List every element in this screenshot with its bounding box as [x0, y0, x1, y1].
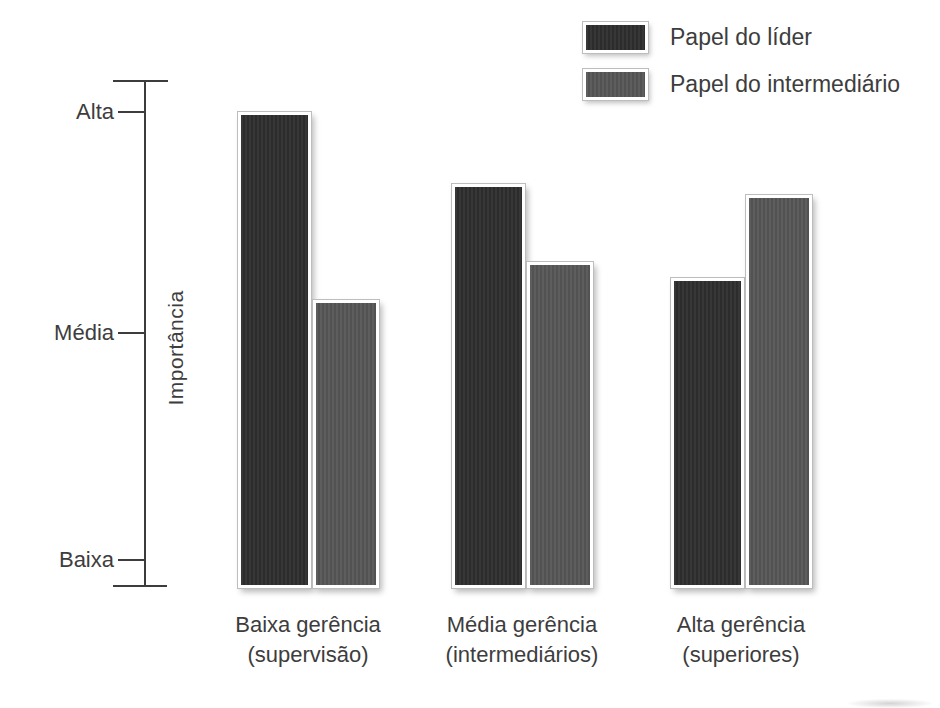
y-tick-label-baixa: Baixa	[14, 546, 114, 574]
scan-artifact	[848, 699, 932, 708]
bar-intermediario-alta-gerencia	[746, 195, 812, 588]
legend: Papel do líder Papel do intermediário	[583, 22, 900, 100]
bar-lider-media-gerencia	[452, 184, 525, 588]
bar-lider-alta-gerencia	[671, 278, 744, 588]
x-label-line2: (superiores)	[621, 640, 861, 670]
y-axis-bottom-cap	[113, 585, 167, 587]
x-label-line1: Baixa gerência	[188, 610, 428, 640]
x-label-baixa-gerencia: Baixa gerência (supervisão)	[188, 610, 428, 670]
bar-group-media-gerencia	[452, 184, 593, 588]
y-axis-line	[144, 81, 146, 587]
y-tick-media	[118, 332, 145, 334]
y-axis-top-cap	[113, 80, 168, 82]
legend-swatch-lider	[583, 22, 648, 53]
bar-intermediario-baixa-gerencia	[313, 300, 379, 588]
legend-swatch-intermediario	[583, 69, 648, 100]
x-label-alta-gerencia: Alta gerência (superiores)	[621, 610, 861, 670]
legend-label-intermediario: Papel do intermediário	[670, 71, 900, 98]
bar-group-alta-gerencia	[671, 195, 812, 588]
bar-intermediario-media-gerencia	[527, 262, 593, 588]
bar-lider-baixa-gerencia	[238, 112, 311, 588]
x-label-line1: Alta gerência	[621, 610, 861, 640]
bar-group-baixa-gerencia	[238, 112, 379, 588]
y-axis-title: Importância	[164, 290, 188, 405]
x-label-media-gerencia: Média gerência (intermediários)	[402, 610, 642, 670]
y-tick-baixa	[118, 559, 145, 561]
y-tick-alta	[118, 111, 145, 113]
legend-item-intermediario: Papel do intermediário	[583, 69, 900, 100]
legend-item-lider: Papel do líder	[583, 22, 900, 53]
x-label-line1: Média gerência	[402, 610, 642, 640]
x-label-line2: (supervisão)	[188, 640, 428, 670]
bar-chart-figure: Papel do líder Papel do intermediário Al…	[0, 0, 940, 708]
y-tick-label-media: Média	[14, 319, 114, 347]
legend-label-lider: Papel do líder	[670, 24, 812, 51]
y-tick-label-alta: Alta	[14, 98, 114, 126]
x-label-line2: (intermediários)	[402, 640, 642, 670]
